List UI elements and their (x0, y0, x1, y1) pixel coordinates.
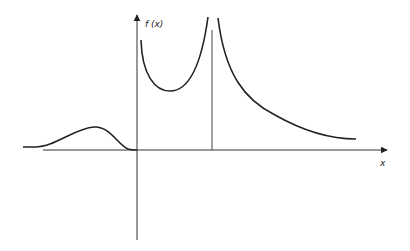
curve-right-tail (218, 18, 356, 139)
y-axis-label: f (x) (145, 19, 163, 29)
x-axis-label: x (379, 158, 386, 168)
curve-left-bump (23, 127, 137, 150)
function-plot: f (x) x (0, 0, 410, 251)
